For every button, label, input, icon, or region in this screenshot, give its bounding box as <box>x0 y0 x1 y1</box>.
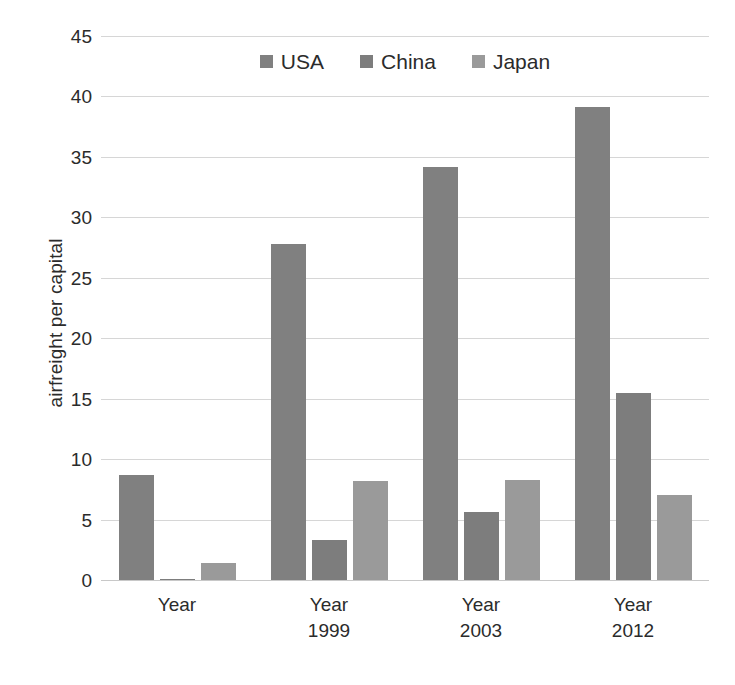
plot-area <box>101 36 709 580</box>
bar-usa-year-2003 <box>423 167 458 580</box>
bar-usa-year-2012 <box>575 107 610 580</box>
x-axis-category-labels: YearYear1999Year2003Year2012 <box>101 592 709 672</box>
legend-item-china[interactable]: China <box>360 51 436 72</box>
bar-japan-year-1999 <box>353 481 388 580</box>
bar-china-year-2003 <box>464 512 499 580</box>
x-axis-group-label-line2: 1999 <box>253 618 405 644</box>
x-axis-group-label-3: Year2012 <box>557 592 709 643</box>
y-axis-tick-label: 40 <box>48 87 92 106</box>
y-axis-tick-label: 45 <box>48 27 92 46</box>
legend: USAChinaJapan <box>101 51 709 72</box>
y-axis-tick-label: 25 <box>48 268 92 287</box>
x-axis-group-label-line1: Year <box>101 592 253 618</box>
y-axis-tick-label: 20 <box>48 329 92 348</box>
x-axis-group-label-2: Year2003 <box>405 592 557 643</box>
legend-item-usa[interactable]: USA <box>260 51 324 72</box>
bar-china-year-2012 <box>616 393 651 580</box>
legend-item-japan[interactable]: Japan <box>472 51 550 72</box>
bar-japan-year-2012 <box>657 495 692 580</box>
legend-swatch-icon <box>260 55 273 68</box>
bar-chart: airfreight per capital 05101520253035404… <box>0 0 735 685</box>
y-axis-tick-label: 0 <box>48 571 92 590</box>
legend-label: Japan <box>493 51 550 72</box>
gridline <box>101 580 709 581</box>
x-axis-group-label-1: Year1999 <box>253 592 405 643</box>
bars-layer <box>101 36 709 580</box>
legend-label: USA <box>281 51 324 72</box>
y-axis-tick-label: 35 <box>48 147 92 166</box>
bar-china-year <box>160 579 195 580</box>
x-axis-group-label-line1: Year <box>557 592 709 618</box>
bar-japan-year-2003 <box>505 480 540 580</box>
y-axis-tick-label: 15 <box>48 389 92 408</box>
legend-label: China <box>381 51 436 72</box>
x-axis-group-label-line2: 2012 <box>557 618 709 644</box>
bar-usa-year <box>119 475 154 580</box>
bar-japan-year <box>201 563 236 580</box>
bar-usa-year-1999 <box>271 244 306 580</box>
y-axis-tick-label: 10 <box>48 450 92 469</box>
x-axis-group-label-0: Year <box>101 592 253 618</box>
y-axis-tick-label: 5 <box>48 510 92 529</box>
y-axis-tick-labels: 051015202530354045 <box>48 36 92 580</box>
legend-swatch-icon <box>472 55 485 68</box>
x-axis-group-label-line1: Year <box>405 592 557 618</box>
bar-china-year-1999 <box>312 540 347 580</box>
x-axis-group-label-line2: 2003 <box>405 618 557 644</box>
y-axis-tick-label: 30 <box>48 208 92 227</box>
legend-swatch-icon <box>360 55 373 68</box>
x-axis-group-label-line1: Year <box>253 592 405 618</box>
